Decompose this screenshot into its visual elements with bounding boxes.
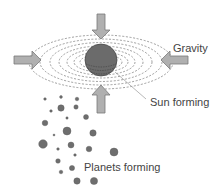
gravity-label: Gravity [173,42,208,54]
planet-blob [110,148,118,156]
planet-blob [42,120,48,126]
planet-blob [60,96,63,99]
planet-blob [74,178,80,184]
planet-blob [66,117,68,119]
sun-sphere [85,44,117,76]
planet-blob [59,170,63,174]
planet-blob [90,130,96,136]
planet-blob [84,115,89,120]
planet-blob [56,159,61,164]
planet-blob [39,140,48,149]
solar-system-formation-diagram: Gravity Sun forming Planets forming [0,0,216,195]
planet-blob [68,142,74,148]
planet-blob [86,146,92,152]
planet-blob [74,154,77,157]
planet-blob [74,105,78,109]
planet-blob [75,97,79,101]
planet-blob [63,127,71,135]
sun-forming-label: Sun forming [150,96,209,108]
planet-blob [90,177,97,184]
planet-blob [44,98,47,101]
planet-blob [53,134,55,136]
arrow-right-icon [14,51,41,69]
planet-blob [58,105,64,111]
planet-blob [69,165,74,170]
planet-blob [50,110,53,113]
sun-leader-line [115,72,146,99]
planet-blob [57,148,60,151]
planets-forming-label: Planets forming [84,161,160,173]
